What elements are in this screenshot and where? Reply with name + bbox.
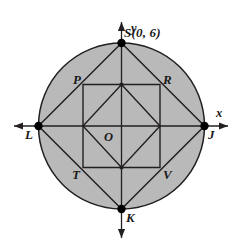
point-label-p: P — [73, 73, 81, 86]
point-dot-k — [117, 205, 125, 213]
point-dot-s — [117, 39, 125, 47]
point-label-s: S(0, 6) — [124, 26, 161, 39]
geometry-canvas — [0, 0, 242, 246]
geometry-figure: y x S(0, 6) J K L P R T V O — [0, 0, 242, 246]
x-axis-label: x — [216, 107, 222, 120]
point-label-v: V — [163, 168, 172, 181]
point-dot-l — [34, 122, 42, 130]
point-label-t: T — [72, 168, 80, 181]
origin-label-o: O — [104, 131, 113, 144]
point-label-r: R — [163, 73, 172, 86]
point-label-k: K — [126, 211, 135, 224]
point-dot-bottom-mid — [119, 165, 123, 169]
point-dot-top-mid — [119, 82, 123, 86]
point-label-j: J — [208, 128, 215, 141]
point-label-l: L — [25, 128, 33, 141]
